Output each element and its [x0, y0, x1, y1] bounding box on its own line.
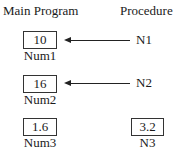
n3-label: N3	[131, 135, 164, 151]
arrow-line	[70, 83, 130, 84]
n1-label: N1	[136, 32, 152, 48]
n2-label: N2	[136, 75, 152, 91]
n3-value-box: 3.2	[131, 118, 164, 136]
num3-label: Num3	[20, 135, 60, 151]
num2-value-box: 16	[23, 75, 57, 93]
procedure-heading: Procedure	[120, 3, 173, 19]
main-program-heading: Main Program	[3, 3, 78, 19]
num3-value-box: 1.6	[23, 118, 57, 136]
num1-value-box: 10	[23, 31, 57, 49]
arrow-line	[70, 40, 130, 41]
num1-label: Num1	[20, 48, 60, 64]
num2-label: Num2	[20, 92, 60, 108]
